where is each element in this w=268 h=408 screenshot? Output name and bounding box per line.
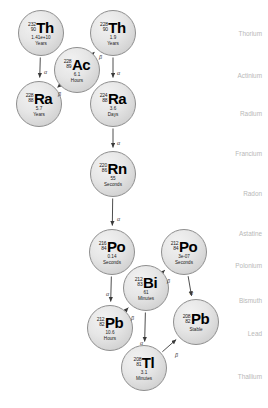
decay-mode-label-rn220-po216: α xyxy=(117,216,120,222)
decay-mode-label-th232-ra228: α xyxy=(44,69,47,75)
half-life-unit: Minutes xyxy=(136,377,152,382)
half-life-unit: Hours xyxy=(71,79,83,84)
element-name-label-radon: Radon xyxy=(243,190,262,197)
half-life-unit: Seconds xyxy=(175,261,193,266)
element-symbol: Rn xyxy=(108,161,127,176)
atomic-number: 90 xyxy=(31,27,36,32)
half-life-unit: Years xyxy=(35,42,47,47)
nuclide-node-rn220[interactable]: 22086Rn55Seconds xyxy=(90,151,136,197)
half-life-unit: Years xyxy=(33,113,45,118)
atomic-number: 81 xyxy=(136,362,141,367)
element-symbol: Tl xyxy=(142,355,155,370)
decay-arrow-po216-pb212 xyxy=(111,276,112,301)
decay-mode-label-ra228-ac228: β xyxy=(58,91,61,97)
decay-mode-label-po212-pb208: α xyxy=(190,290,193,296)
atomic-number: 89 xyxy=(66,64,71,69)
element-symbol: Po xyxy=(107,239,125,254)
nuclide-node-pb208[interactable]: 20882PbStable xyxy=(173,299,219,345)
decay-mode-label-ac228-th228: β xyxy=(99,54,102,60)
nuclide-node-bi212[interactable]: 21283Bi61Minutes xyxy=(123,265,169,311)
element-name-label-bismuth: Bismuth xyxy=(239,297,262,304)
element-symbol: Po xyxy=(179,239,197,254)
element-symbol: Pb xyxy=(191,311,209,326)
nuclide-node-ra228[interactable]: 22888Ra5.7Years xyxy=(16,81,62,127)
atomic-number: 84 xyxy=(173,246,178,251)
nuclide-node-ra224[interactable]: 22488Ra3.6Days xyxy=(90,81,136,127)
element-symbol: Ra xyxy=(34,91,52,106)
half-life-unit: Hours xyxy=(104,337,116,342)
decay-mode-label-th228-ra224: α xyxy=(117,70,120,76)
half-life-unit: Seconds xyxy=(103,261,121,266)
nuclide-node-tl208[interactable]: 20881Tl3.1Minutes xyxy=(121,345,167,391)
half-life-value: Stable xyxy=(189,328,202,333)
atomic-number: 90 xyxy=(103,27,108,32)
element-name-label-astatine: Astatine xyxy=(239,230,262,237)
element-symbol: Pb xyxy=(105,315,123,330)
half-life-unit: Minutes xyxy=(138,297,154,302)
half-life-unit: Days xyxy=(108,113,118,118)
atomic-number: 88 xyxy=(28,98,33,103)
half-life-unit: Years xyxy=(107,42,119,47)
atomic-number: 84 xyxy=(101,246,106,251)
decay-mode-label-tl208-pb208: β xyxy=(175,352,178,358)
decay-mode-label-bi212-po212: β xyxy=(167,278,170,284)
atomic-number: 86 xyxy=(102,168,107,173)
element-symbol: Bi xyxy=(143,275,157,290)
atomic-number: 88 xyxy=(102,98,107,103)
decay-arrow-th232-ra228 xyxy=(40,57,41,77)
element-name-label-radium: Radium xyxy=(240,110,262,117)
atomic-number: 83 xyxy=(137,282,142,287)
element-name-label-actinium: Actinium xyxy=(237,72,262,79)
half-life-unit: Seconds xyxy=(104,183,122,188)
element-symbol: Th xyxy=(108,20,126,35)
decay-arrow-bi212-tl208 xyxy=(145,312,146,341)
element-name-label-polonium: Polonium xyxy=(235,262,262,269)
element-name-label-lead: Lead xyxy=(248,330,262,337)
decay-mode-label-ra224-rn220: α xyxy=(117,140,120,146)
element-symbol: Ra xyxy=(108,91,126,106)
element-symbol: Th xyxy=(36,20,54,35)
nuclide-node-pb212[interactable]: 21282Pb10.6Hours xyxy=(87,305,133,351)
decay-mode-label-bi212-tl208: α xyxy=(140,340,143,346)
element-symbol: Ac xyxy=(72,57,90,72)
decay-mode-label-po216-pb212: α xyxy=(106,291,109,297)
decay-mode-label-pb212-bi212: β xyxy=(131,315,134,321)
element-name-label-thallium: Thallium xyxy=(238,373,262,380)
element-name-label-thorium: Thorium xyxy=(239,30,262,37)
atomic-number: 82 xyxy=(99,322,104,327)
element-name-label-francium: Francium xyxy=(235,150,262,157)
decay-chain-diagram: 23290Th1.41e+10Years22890Th1.9Years22889… xyxy=(0,0,268,408)
atomic-number: 82 xyxy=(185,319,190,324)
